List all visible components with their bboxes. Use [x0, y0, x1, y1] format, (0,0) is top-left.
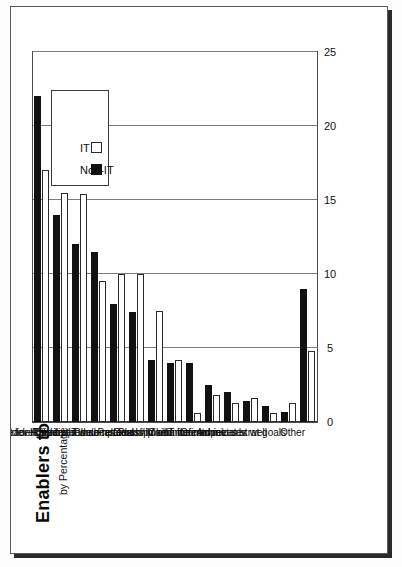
bar-it [42, 170, 49, 422]
value-tick-25: 25 [323, 46, 337, 58]
category-label: Other [195, 428, 305, 438]
bar-group [205, 52, 223, 422]
bar-it [270, 413, 277, 422]
bar-it [80, 194, 87, 422]
bar-group [281, 52, 299, 422]
rotated-chart-wrapper: Enablers to Alignment by Percentage Exec… [11, 7, 389, 555]
bar-it [99, 281, 106, 422]
value-tick-0: 0 [323, 416, 337, 428]
bar-nonit [91, 252, 98, 422]
plot-area: Non-ITIT [32, 51, 318, 423]
bar-it [232, 403, 239, 422]
value-tick-5: 5 [323, 342, 337, 354]
bar-nonit [186, 363, 193, 422]
bar-nonit [53, 215, 60, 422]
bar-group [243, 52, 261, 422]
bar-it [137, 274, 144, 422]
bar-nonit [205, 385, 212, 422]
bar-group [110, 52, 128, 422]
legend-label: Non-IT [80, 164, 114, 176]
bar-it [118, 274, 125, 422]
category-axis-labels: Exec support for ITStrategy developedLea… [32, 425, 318, 541]
bar-nonit [262, 406, 269, 422]
bar-it [175, 360, 182, 422]
bar-it [61, 193, 68, 422]
bar-nonit [300, 289, 307, 422]
bar-group [148, 52, 166, 422]
bar-chart: Enablers to Alignment by Percentage Exec… [24, 21, 376, 541]
bar-it [156, 311, 163, 422]
bar-nonit [281, 412, 288, 422]
bar-group [186, 52, 204, 422]
value-axis: 0510152025 [320, 51, 346, 423]
bar-nonit [167, 363, 174, 422]
bar-it [308, 351, 315, 422]
scanned-page: Enablers to Alignment by Percentage Exec… [0, 0, 402, 567]
legend-label: IT [80, 142, 90, 154]
bar-it [194, 413, 201, 422]
bar-group [262, 52, 280, 422]
bar-it [251, 398, 258, 422]
value-tick-10: 10 [323, 268, 337, 280]
bar-nonit [148, 360, 155, 422]
bar-it [289, 403, 296, 422]
bar-nonit [129, 312, 136, 422]
value-tick-20: 20 [323, 120, 337, 132]
chart-legend: Non-ITIT [51, 90, 109, 186]
legend-swatch-it [91, 142, 102, 153]
bar-group [34, 52, 52, 422]
bar-group [129, 52, 147, 422]
bar-group [167, 52, 185, 422]
value-tick-15: 15 [323, 194, 337, 206]
bar-group [224, 52, 242, 422]
bar-nonit [224, 392, 231, 422]
bar-nonit [243, 401, 250, 422]
bar-nonit [34, 96, 41, 422]
bar-group [300, 52, 318, 422]
bar-nonit [110, 304, 117, 422]
bar-it [213, 395, 220, 422]
bar-nonit [72, 244, 79, 422]
page-sheet: Enablers to Alignment by Percentage Exec… [10, 6, 388, 554]
